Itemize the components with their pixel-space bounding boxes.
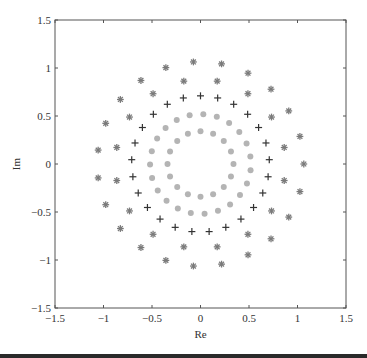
x-axis-label: Re	[194, 328, 206, 340]
plus-marker	[128, 156, 135, 163]
plus-marker	[250, 204, 257, 211]
circle-marker	[210, 131, 216, 137]
plus-marker	[214, 94, 221, 101]
asterisk-marker	[126, 208, 133, 215]
asterisk-marker	[285, 108, 292, 115]
plus-marker	[150, 111, 157, 118]
circle-marker	[228, 173, 234, 179]
plus-marker	[206, 228, 213, 235]
x-tick-label: 0.5	[242, 312, 256, 324]
asterisk-marker	[102, 201, 109, 208]
plus-marker	[135, 189, 142, 196]
circle-marker	[230, 161, 236, 167]
circle-marker	[175, 206, 181, 212]
asterisk-marker	[214, 243, 221, 250]
asterisk-marker	[180, 78, 187, 85]
asterisk-marker	[218, 261, 225, 268]
plus-marker	[197, 92, 204, 99]
x-tick-label: −0.5	[142, 312, 162, 324]
x-tick-label: −1	[98, 312, 110, 324]
circle-marker	[221, 138, 227, 144]
asterisk-marker	[95, 147, 102, 154]
asterisk-marker	[268, 114, 275, 121]
plus-marker	[222, 224, 229, 231]
y-tick-label: −1	[39, 254, 51, 266]
plus-marker	[244, 111, 251, 118]
plus-marker	[180, 94, 187, 101]
circle-marker	[155, 187, 161, 193]
asterisk-marker	[268, 208, 275, 215]
plus-marker	[237, 216, 244, 223]
plus-marker	[188, 228, 195, 235]
asterisk-marker	[117, 96, 124, 103]
circle-marker	[198, 194, 204, 200]
asterisk-marker	[126, 114, 133, 121]
plus-marker	[230, 101, 237, 108]
asterisk-marker	[162, 257, 169, 264]
plus-marker	[172, 224, 179, 231]
circle-marker	[237, 192, 243, 198]
plus-marker	[164, 101, 171, 108]
y-axis-label: Im	[10, 157, 22, 170]
asterisk-marker	[245, 90, 252, 97]
scatter-chart: −1.5−1−0.500.511.5−1.5−1−0.500.511.5 Re …	[0, 0, 367, 358]
asterisk-marker	[190, 59, 197, 66]
circle-marker	[248, 167, 254, 173]
plus-marker	[139, 124, 146, 131]
circle-marker	[228, 149, 234, 155]
plus-marker	[259, 189, 266, 196]
circle-marker	[202, 211, 208, 217]
circle-marker	[164, 198, 170, 204]
asterisk-marker	[95, 175, 102, 182]
asterisk-marker	[268, 235, 275, 242]
circle-marker	[226, 120, 232, 126]
circle-marker	[188, 210, 194, 216]
circle-marker	[236, 129, 242, 135]
plus-marker	[157, 216, 164, 223]
circle-marker	[163, 125, 169, 131]
plus-marker	[132, 139, 139, 146]
data-points	[95, 59, 307, 270]
circle-marker	[247, 154, 253, 160]
y-tick-label: 1.5	[37, 14, 51, 26]
asterisk-marker	[218, 60, 225, 67]
plus-marker	[129, 173, 136, 180]
asterisk-marker	[300, 161, 307, 168]
circle-marker	[221, 184, 227, 190]
asterisk-marker	[150, 231, 157, 238]
circle-marker	[244, 141, 250, 147]
plus-marker	[144, 204, 151, 211]
inner-circle-ring-series	[165, 128, 237, 199]
asterisk-marker	[281, 144, 288, 151]
asterisk-marker	[138, 244, 145, 251]
circle-marker	[174, 184, 180, 190]
circle-marker	[187, 112, 193, 118]
circle-marker	[154, 136, 160, 142]
bottom-border-bar	[0, 354, 367, 358]
asterisk-marker	[113, 144, 120, 151]
asterisk-marker	[180, 243, 187, 250]
circle-marker	[149, 175, 155, 181]
x-tick-label: 0	[198, 312, 204, 324]
asterisk-marker	[190, 263, 197, 270]
asterisk-marker	[268, 86, 275, 93]
circle-marker	[227, 201, 233, 207]
inner-asterisk-ring-series	[113, 78, 287, 250]
asterisk-marker	[214, 78, 221, 85]
circle-marker	[214, 114, 220, 120]
y-tick-label: 0	[46, 158, 52, 170]
circle-marker	[210, 191, 216, 197]
asterisk-marker	[297, 188, 304, 195]
asterisk-marker	[117, 225, 124, 232]
circle-marker	[147, 162, 153, 168]
x-tick-label: 1.5	[339, 312, 353, 324]
y-tick-label: −1.5	[31, 302, 51, 314]
circle-marker	[198, 128, 204, 134]
circle-marker	[174, 138, 180, 144]
circle-marker	[174, 117, 180, 123]
circle-marker	[244, 180, 250, 186]
y-tick-label: 1	[46, 62, 52, 74]
circle-marker	[167, 173, 173, 179]
circle-marker	[185, 191, 191, 197]
circle-marker	[215, 208, 221, 214]
